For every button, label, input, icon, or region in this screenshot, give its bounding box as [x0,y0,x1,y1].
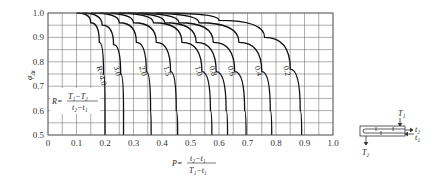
x-tick-label: 0.8 [270,138,282,148]
heat-exchanger-schematic [360,118,414,145]
svg-text:P=: P= [171,159,182,168]
curve-label: 0.8 [207,65,218,77]
y-axis-label: φΔt [25,70,36,80]
y-tick-label: 0.9 [33,32,45,42]
curve-label: 0.6 [226,65,237,77]
svg-text:T₁−T₂: T₁−T₂ [68,92,88,101]
y-tick-label: 0.7 [33,81,45,91]
axis-ticks: 00.10.20.30.40.50.60.70.80.91.00.50.60.7… [33,8,339,148]
x-tick-label: 1.0 [327,138,339,148]
y-tick-label: 0.5 [33,130,45,140]
svg-text:T₁−t₁: T₁−t₁ [189,166,207,175]
curve-label: R=4.0 [95,65,109,87]
curve-label: 2.0 [137,65,148,77]
label-T1: T₁ [398,109,405,118]
curve-label: 0.4 [253,65,264,77]
curve-label: 1.0 [193,65,204,77]
label-T2: T₂ [362,148,369,157]
curve-label: 1.5 [162,65,173,77]
curve-label: 0.2 [281,65,292,77]
correction-factor-chart: R=4.03.02.01.51.00.80.60.40.2 00.10.20.3… [0,0,445,183]
y-tick-label: 1.0 [33,8,45,18]
svg-text:R=: R= [51,97,62,106]
y-tick-label: 0.8 [33,57,45,67]
x-tick-label: 0.1 [71,138,82,148]
p-formula: P= t₂−t₁ T₁−t₁ [171,154,216,175]
svg-text:t₂−t₁: t₂−t₁ [72,103,88,112]
x-tick-label: 0.9 [299,138,311,148]
x-tick-label: 0.4 [156,138,168,148]
r-formula: R= T₁−T₂ t₂−t₁ [50,88,100,114]
svg-text:t₂−t₁: t₂−t₁ [190,154,206,163]
x-tick-label: 0.5 [185,138,197,148]
x-tick-label: 0.2 [99,138,110,148]
y-tick-label: 0.6 [33,106,45,116]
x-tick-label: 0.7 [242,138,254,148]
x-tick-label: 0.3 [128,138,140,148]
x-tick-label: 0 [46,138,51,148]
x-tick-label: 0.6 [213,138,225,148]
label-t1: t₁ [415,133,420,142]
